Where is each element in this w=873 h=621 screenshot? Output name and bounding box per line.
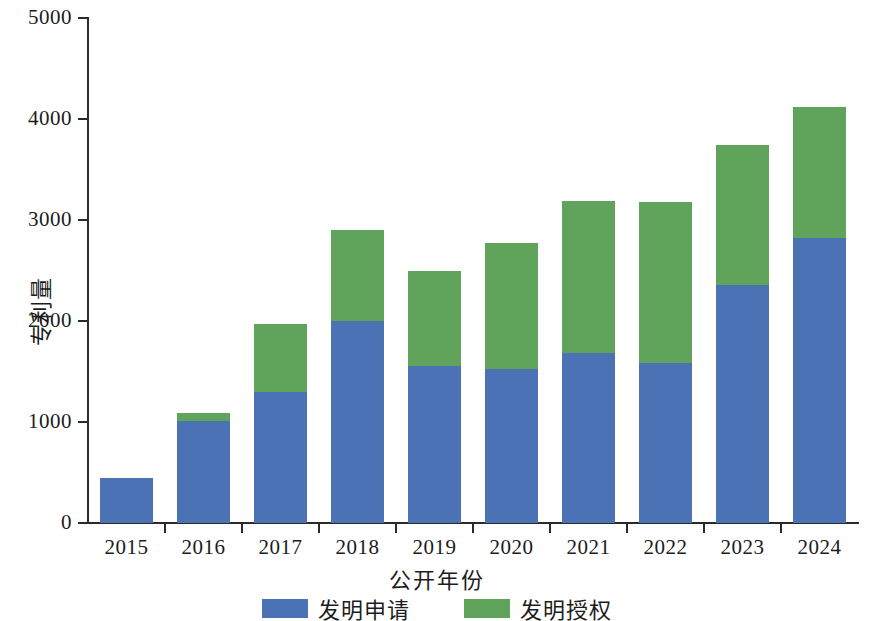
bar-segment-grant[interactable] [485,243,539,369]
y-tick-mark [78,17,88,19]
x-axis-title: 公开年份 [0,562,873,594]
bar-segment-apply[interactable] [639,363,693,523]
y-tick-mark [78,320,88,322]
x-tick-label: 2024 [775,536,865,559]
bar-group[interactable] [562,18,616,523]
stacked-bar-chart: 专利量 010002000300040005000 20152016201720… [0,0,873,621]
bar-group[interactable] [254,18,308,523]
legend-item[interactable]: 发明申请 [262,592,410,621]
legend-label: 发明授权 [520,592,612,621]
bar-segment-apply[interactable] [331,321,385,523]
bar-segment-grant[interactable] [254,324,308,392]
x-tick-mark [241,524,243,533]
bar-segment-apply[interactable] [793,238,847,523]
y-tick-label: 3000 [0,209,72,230]
bar-group[interactable] [716,18,770,523]
x-tick-mark [780,524,782,533]
y-tick-mark [78,219,88,221]
bar-group[interactable] [793,18,847,523]
y-tick-mark [78,522,88,524]
bar-segment-apply[interactable] [485,369,539,523]
bar-segment-apply[interactable] [562,353,616,523]
bar-segment-apply[interactable] [254,392,308,523]
bar-segment-grant[interactable] [793,107,847,238]
y-tick-label: 5000 [0,7,72,28]
x-tick-mark [164,524,166,533]
plot-area [88,18,858,523]
x-tick-mark [626,524,628,533]
bar-segment-grant[interactable] [177,413,231,421]
bar-segment-grant[interactable] [639,202,693,364]
x-tick-mark [703,524,705,533]
bar-group[interactable] [100,18,154,523]
legend-swatch-icon [464,599,510,618]
legend-label: 发明申请 [318,592,410,621]
bar-segment-apply[interactable] [716,285,770,523]
bar-segment-grant[interactable] [562,201,616,354]
bar-segment-apply[interactable] [177,421,231,523]
y-tick-label: 2000 [0,310,72,331]
bar-group[interactable] [639,18,693,523]
bar-segment-apply[interactable] [100,478,154,523]
y-tick-mark [78,421,88,423]
y-tick-label: 0 [0,512,72,533]
bar-segment-grant[interactable] [408,271,462,366]
x-tick-mark [472,524,474,533]
bar-group[interactable] [331,18,385,523]
y-tick-label: 4000 [0,108,72,129]
bar-segment-apply[interactable] [408,366,462,523]
bar-group[interactable] [177,18,231,523]
y-tick-mark [78,118,88,120]
legend-item[interactable]: 发明授权 [464,592,612,621]
x-tick-mark [549,524,551,533]
y-tick-label: 1000 [0,411,72,432]
bar-segment-grant[interactable] [716,145,770,285]
bar-group[interactable] [408,18,462,523]
bar-group[interactable] [485,18,539,523]
x-tick-mark [318,524,320,533]
x-tick-mark [395,524,397,533]
legend-swatch-icon [262,599,308,618]
chart-legend: 发明申请发明授权 [0,592,873,621]
bar-segment-grant[interactable] [331,230,385,321]
